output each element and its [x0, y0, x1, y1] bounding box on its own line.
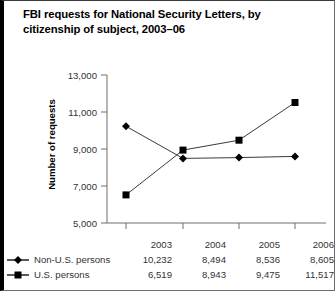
data-table: 2003 2004 2005 2006 Non-U.S. persons — [4, 237, 334, 282]
legend-label-non-us-persons: Non-U.S. persons — [32, 252, 118, 267]
value-us-2004: 8,943 — [172, 267, 226, 282]
legend-label-us-persons: U.S. persons — [32, 267, 118, 282]
y-tick-label-5000: 5,000 — [73, 218, 97, 229]
figure-container: FBI requests for National Security Lette… — [0, 0, 335, 291]
legend-marker-non-us-persons — [4, 252, 32, 267]
data-point-non-us-2003 — [122, 122, 130, 130]
data-point-non-us-2006 — [291, 152, 299, 160]
legend-marker-us-persons — [4, 267, 32, 282]
data-point-non-us-2004 — [179, 154, 187, 162]
square-marker-icon — [6, 270, 30, 280]
data-point-us-2006 — [292, 99, 299, 106]
data-point-us-2004 — [180, 147, 187, 154]
value-non-us-2003: 10,232 — [118, 252, 172, 267]
series-line-non-us-persons — [126, 126, 295, 158]
data-point-us-2003 — [123, 191, 130, 198]
line-chart-svg: 13,000 11,000 9,000 7,000 5,000 — [4, 53, 334, 238]
y-tick-label-11000: 11,000 — [68, 107, 97, 118]
chart-title: FBI requests for National Security Lette… — [23, 7, 319, 36]
header-marker-spacer — [4, 237, 32, 252]
header-2006: 2006 — [280, 237, 334, 252]
y-tick-label-13000: 13,000 — [68, 70, 97, 81]
value-non-us-2004: 8,494 — [172, 252, 226, 267]
header-2004: 2004 — [172, 237, 226, 252]
legend-value-table: 2003 2004 2005 2006 Non-U.S. persons — [4, 237, 335, 282]
data-point-us-2005 — [236, 137, 243, 144]
header-2005: 2005 — [226, 237, 280, 252]
value-non-us-2005: 8,536 — [226, 252, 280, 267]
value-us-2005: 9,475 — [226, 267, 280, 282]
value-us-2006: 11,517 — [280, 267, 334, 282]
value-non-us-2006: 8,605 — [280, 252, 334, 267]
y-tick-label-9000: 9,000 — [73, 144, 97, 155]
table-row: Non-U.S. persons 10,232 8,494 8,536 8,60… — [4, 252, 335, 267]
plot-area: 13,000 11,000 9,000 7,000 5,000 — [4, 53, 334, 238]
value-us-2003: 6,519 — [118, 267, 172, 282]
data-point-non-us-2005 — [235, 154, 243, 162]
series-line-us-persons — [126, 103, 295, 195]
header-name-spacer — [32, 237, 118, 252]
y-tick-label-7000: 7,000 — [73, 181, 97, 192]
diamond-marker-icon — [6, 255, 30, 265]
table-row: U.S. persons 6,519 8,943 9,475 11,517 — [4, 267, 335, 282]
table-header-row: 2003 2004 2005 2006 — [4, 237, 335, 252]
header-2003: 2003 — [118, 237, 172, 252]
